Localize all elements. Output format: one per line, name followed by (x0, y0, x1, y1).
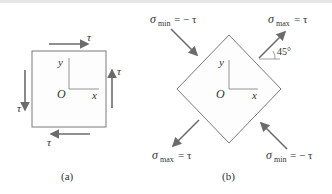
panel-b: y O x 45° σ min = − τ σ max = τ σ max = … (150, 12, 313, 183)
sigma-max-label-bottom-left: σ max = τ (152, 148, 192, 164)
svg-text:= τ: = τ (178, 149, 192, 161)
svg-text:min: min (274, 155, 286, 164)
svg-text:= τ: = τ (294, 13, 308, 25)
x-axis-label: x (91, 89, 97, 101)
svg-text:σ: σ (150, 12, 157, 26)
x-axis-label: x (251, 89, 257, 101)
svg-text:min: min (158, 19, 170, 28)
origin-label: O (57, 87, 66, 101)
sigma-min-label-top-left: σ min = − τ (150, 12, 197, 28)
svg-text:= − τ: = − τ (290, 149, 313, 161)
svg-text:max: max (160, 155, 174, 164)
sigma-max-arrow-bottom-left (173, 120, 199, 146)
caption-a: (a) (61, 170, 74, 183)
tau-left: τ (17, 102, 22, 114)
svg-text:= − τ: = − τ (174, 13, 197, 25)
svg-text:max: max (276, 19, 290, 28)
tau-right: τ (117, 65, 122, 77)
svg-text:σ: σ (268, 12, 275, 26)
tau-bottom: τ (47, 136, 52, 148)
sigma-min-arrow-top-left (171, 29, 197, 55)
stress-diagram: y O x τ τ τ τ (a) y O x 45° σ (0, 0, 332, 194)
sigma-min-arrow-bottom-right (261, 123, 287, 149)
tau-top: τ (87, 31, 92, 43)
origin-label: O (216, 87, 225, 101)
sigma-min-label-bottom-right: σ min = − τ (266, 148, 313, 164)
panel-a: y O x τ τ τ τ (a) (17, 31, 122, 183)
caption-b: (b) (222, 170, 235, 183)
angle-label: 45° (277, 46, 291, 57)
svg-text:σ: σ (266, 148, 273, 162)
y-axis-label: y (57, 56, 63, 68)
svg-text:σ: σ (152, 148, 159, 162)
sigma-max-label-top-right: σ max = τ (268, 12, 308, 28)
angle-arc (273, 51, 275, 59)
y-axis-label: y (218, 56, 224, 68)
